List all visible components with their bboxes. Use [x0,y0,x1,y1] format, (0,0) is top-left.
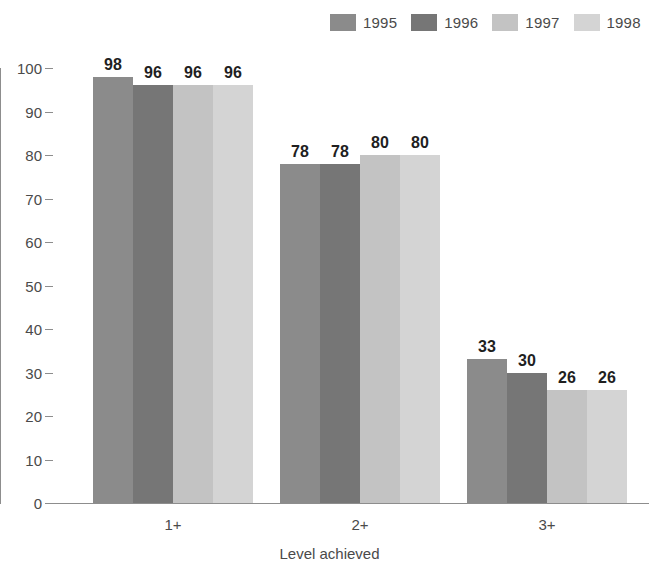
bar-value-label: 80 [400,134,440,152]
legend-swatch-1998 [574,14,600,31]
y-axis-tick [45,155,53,156]
bar-value-label: 78 [280,143,320,161]
y-axis-tick-label: 30 [0,364,42,381]
bar [467,359,507,503]
y-axis-tick [45,329,53,330]
legend-item[interactable]: 1996 [411,14,478,31]
bar-value-label: 96 [213,64,253,82]
bar [280,164,320,503]
legend-item[interactable]: 1997 [492,14,559,31]
bar [93,77,133,503]
x-axis-category-label: 2+ [280,516,440,533]
chart-legend: 1995199619971998 [330,10,650,34]
y-axis-tick [45,416,53,417]
y-axis-tick [45,503,53,504]
bar [400,155,440,503]
y-axis-tick [45,68,53,69]
y-axis-tick-label: 60 [0,234,42,251]
y-axis-tick [45,112,53,113]
y-axis-tick [45,242,53,243]
bar [213,85,253,503]
y-axis-tick-label: 80 [0,147,42,164]
x-axis-category-label: 1+ [93,516,253,533]
legend-swatch-1997 [492,14,518,31]
legend-swatch-1995 [330,14,356,31]
bar-value-label: 26 [547,369,587,387]
legend-item[interactable]: 1995 [330,14,397,31]
y-axis-tick [45,286,53,287]
x-axis-line [53,503,649,504]
bar-value-label: 96 [133,64,173,82]
bar [360,155,400,503]
x-axis-category-label: 3+ [467,516,627,533]
y-axis-tick-label: 90 [0,103,42,120]
y-axis-tick [45,373,53,374]
bar-value-label: 33 [467,338,507,356]
bar-value-label: 96 [173,64,213,82]
bar [507,373,547,504]
bar-value-label: 78 [320,143,360,161]
y-axis-tick-label: 70 [0,190,42,207]
bar-value-label: 98 [93,56,133,74]
legend-item[interactable]: 1998 [574,14,641,31]
bar [133,85,173,503]
y-axis-tick [45,460,53,461]
y-axis-tick [45,199,53,200]
bar [320,164,360,503]
y-axis-tick-label: 10 [0,451,42,468]
bar-chart: 1995199619971998 0102030405060708090100 … [0,0,659,576]
y-axis-tick-label: 50 [0,277,42,294]
bar-value-label: 30 [507,352,547,370]
y-axis-tick-label: 20 [0,408,42,425]
bar [587,390,627,503]
bar [547,390,587,503]
bar [173,85,213,503]
plot-area: 989696967878808033302626 [53,68,649,503]
legend-swatch-1996 [411,14,437,31]
legend-label: 1996 [444,14,478,31]
y-axis-tick-label: 40 [0,321,42,338]
legend-label: 1998 [607,14,641,31]
y-axis-tick-label: 0 [0,495,42,512]
y-axis-tick-label: 100 [0,60,42,77]
x-axis-title: Level achieved [0,545,659,562]
legend-label: 1997 [525,14,559,31]
legend-label: 1995 [363,14,397,31]
bar-value-label: 80 [360,134,400,152]
bar-value-label: 26 [587,369,627,387]
